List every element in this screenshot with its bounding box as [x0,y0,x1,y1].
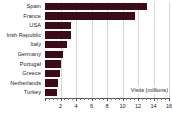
x-tick-label: 4 [74,102,77,110]
tick-minor [88,98,89,100]
tick-minor [130,98,131,100]
category-label: Greece [0,69,43,79]
x-tick-label: 8 [105,102,108,110]
bar [45,70,60,77]
x-tick-label: 14 [150,102,156,110]
tick-major [138,98,139,101]
tick-minor [111,98,112,100]
category-label: Turkey [0,88,43,98]
x-tick-label: 2 [59,102,62,110]
tick-major [61,98,62,101]
tick-minor [126,98,127,100]
tick-minor [72,98,73,100]
bar [45,89,57,96]
tick-minor [150,98,151,100]
tick-minor [146,98,147,100]
bar [45,12,135,19]
category-label: Italy [0,40,43,50]
category-label: Portugal [0,60,43,70]
category-label: France [0,12,43,22]
tick-major [92,98,93,101]
tick-minor [165,98,166,100]
category-label: Irish Republic [0,31,43,41]
tick-minor [161,98,162,100]
bar-row [45,50,169,60]
bar-row [45,40,169,50]
tick-major [107,98,108,101]
bar [45,41,67,48]
tick-minor [57,98,58,100]
bar [45,3,147,10]
tick-major [123,98,124,101]
x-tick-label: 6 [90,102,93,110]
bar-row [45,12,169,22]
gridline [169,2,170,98]
bar-row [45,69,169,79]
tick-minor [64,98,65,100]
x-tick-label: 10 [119,102,125,110]
tick-minor [49,98,50,100]
x-tick-label: 12 [135,102,141,110]
x-tick-label: 16 [166,102,172,110]
x-axis-title: Visits (millions) [130,86,169,94]
tick-minor [80,98,81,100]
plot-area [45,2,169,98]
bar-row [45,31,169,41]
tick-major [154,98,155,101]
category-label: Germany [0,50,43,60]
category-label: Spain [0,2,43,12]
bar-row [45,60,169,70]
bar [45,79,58,86]
bar-chart: SpainFranceUSAIrish RepublicItalyGermany… [0,0,172,113]
bar-row [45,21,169,31]
x-axis-tick-labels: 246810121416 [45,102,169,111]
tick-minor [95,98,96,100]
bar [45,31,71,38]
tick-major [45,98,46,101]
category-axis: SpainFranceUSAIrish RepublicItalyGermany… [0,2,43,98]
tick-minor [99,98,100,100]
bar [45,51,63,58]
tick-minor [103,98,104,100]
bars-layer [45,2,169,98]
tick-major [76,98,77,101]
bar [45,60,61,67]
tick-major [169,98,170,101]
tick-minor [142,98,143,100]
tick-minor [53,98,54,100]
bar-row [45,2,169,12]
bar [45,22,71,29]
tick-minor [157,98,158,100]
tick-minor [84,98,85,100]
tick-minor [68,98,69,100]
category-label: USA [0,21,43,31]
tick-minor [115,98,116,100]
category-label: Netherlands [0,79,43,89]
tick-minor [134,98,135,100]
tick-minor [119,98,120,100]
